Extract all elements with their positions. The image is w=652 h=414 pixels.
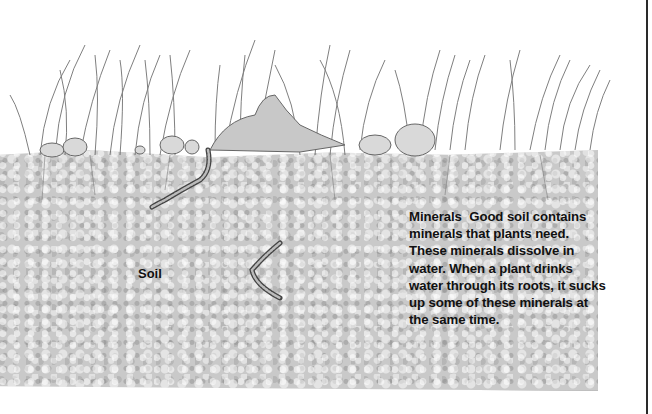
caption-title: Minerals — [409, 209, 462, 224]
caption-body: Good soil contains minerals that plants … — [409, 209, 606, 327]
illustration-scene: Soil Minerals Good soil contains mineral… — [0, 0, 652, 414]
soil-label: Soil — [138, 266, 162, 281]
grass-stones-worms-art — [0, 0, 652, 414]
minerals-caption: Minerals Good soil contains minerals tha… — [409, 208, 609, 328]
page-edge-divider — [646, 0, 648, 414]
roots-icon — [42, 155, 548, 200]
